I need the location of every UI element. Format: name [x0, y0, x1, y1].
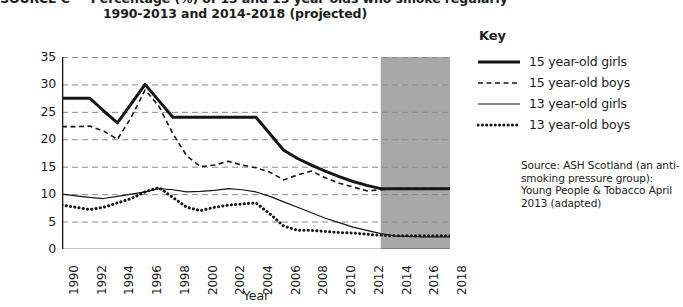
legend-line-swatch-icon: [477, 56, 521, 68]
projection-shaded-region: [381, 57, 450, 249]
legend-item-2: 13 year-old girls: [477, 93, 677, 114]
x-axis-label: Year: [62, 288, 450, 303]
plot-area: [62, 57, 450, 249]
y-tick-label-15: 15: [30, 161, 56, 173]
y-tick-label-10: 10: [30, 188, 56, 200]
legend-title: Key: [479, 28, 677, 43]
legend-item-label: 13 year-old boys: [529, 117, 630, 132]
chart-title-line-2: 1990-2013 and 2014-2018 (projected): [0, 6, 470, 21]
legend-line-swatch-icon: [477, 98, 521, 110]
legend: Key 15 year-old girls15 year-old boys13 …: [477, 28, 677, 135]
legend-item-1: 15 year-old boys: [477, 72, 677, 93]
legend-item-label: 15 year-old boys: [529, 75, 630, 90]
chart-title: SOURCE C — Percentage (%) of 13 and 15 y…: [0, 0, 470, 21]
source-note: Source: ASH Scotland (an anti-smoking pr…: [521, 159, 681, 209]
legend-item-0: 15 year-old girls: [477, 51, 677, 72]
chart-page: SOURCE C — Percentage (%) of 13 and 15 y…: [0, 0, 683, 307]
legend-line-swatch-icon: [477, 77, 521, 89]
legend-item-3: 13 year-old boys: [477, 114, 677, 135]
legend-items: 15 year-old girls15 year-old boys13 year…: [477, 51, 677, 135]
y-tick-label-20: 20: [30, 133, 56, 145]
legend-item-label: 15 year-old girls: [529, 54, 627, 69]
line-chart-svg: [62, 57, 450, 249]
y-tick-label-30: 30: [30, 78, 56, 90]
y-tick-label-5: 5: [30, 216, 56, 228]
x-tick-label-2018: 2018: [455, 265, 469, 295]
y-tick-label-35: 35: [30, 51, 56, 63]
y-axis-ticks: 05101520253035: [28, 57, 56, 249]
legend-line-swatch-icon: [477, 119, 521, 131]
y-tick-label-0: 0: [30, 243, 56, 255]
y-tick-label-25: 25: [30, 106, 56, 118]
legend-item-label: 13 year-old girls: [529, 96, 627, 111]
